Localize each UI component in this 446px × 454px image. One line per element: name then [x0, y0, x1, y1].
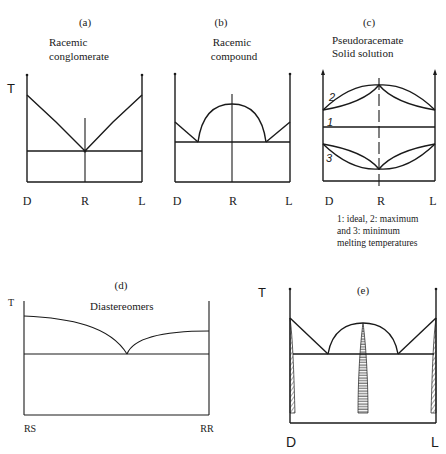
panel-e-liquidus-right [398, 318, 436, 354]
panel-e-left-arrow-icon [289, 288, 292, 291]
panel-e-label: (e) [357, 284, 370, 297]
panel-b-tick-L: L [285, 194, 292, 208]
panel-c-curve-label-3: 3 [326, 152, 333, 164]
panel-a-tick-R: R [81, 194, 89, 208]
panel-d-liquidus-left [24, 316, 127, 354]
panel-c-tick-R: R [377, 194, 385, 208]
panel-b-tick-D: D [173, 194, 182, 208]
panel-d-tick-RS: RS [24, 423, 36, 434]
panel-a-right-arrow-icon [141, 74, 144, 77]
panel-c-right-arrow-icon [433, 69, 437, 75]
panel-e-solid-solution-D [290, 318, 295, 413]
panel-a-title-line2: conglomerate [49, 50, 109, 62]
panel-c-pseudoracemate: (c) Pseudoracemate Solid solution 2 1 3 … [321, 16, 437, 248]
panel-e-y-axis-label: T [258, 285, 266, 300]
panel-c-caption-line1: 1: ideal, 2: maximum [337, 214, 419, 224]
panel-c-tick-D: D [325, 194, 334, 208]
panel-b-title-line2: compound [211, 50, 258, 62]
panel-c-label: (c) [363, 16, 376, 29]
panel-e-partial-solid-solution: (e) T D L [258, 284, 439, 450]
panel-c-title-line2: Solid solution [332, 47, 394, 59]
panel-a-eutectic-point [84, 150, 87, 153]
panel-b-tick-R: R [229, 194, 237, 208]
panel-c-left-arrow-icon [321, 69, 325, 75]
panel-b-left-arrow-icon [174, 73, 177, 76]
phase-diagrams-figure: (a) Racemic conglomerate T D R L (b) Rac… [0, 0, 446, 454]
panel-d-label: (d) [115, 279, 128, 292]
panel-a-title-line1: Racemic [49, 36, 88, 48]
panel-a-racemic-conglomerate: (a) Racemic conglomerate T D R L [7, 16, 146, 208]
panel-e-solid-solution-racemate [358, 323, 368, 413]
panel-a-y-axis-label: T [7, 81, 15, 96]
panel-e-right-arrow-icon [435, 288, 438, 291]
panel-c-tick-L: L [429, 194, 436, 208]
panel-e-tick-D: D [286, 434, 296, 450]
panel-d-diastereomers: (d) Diastereomers T RS RR [8, 279, 214, 434]
panel-b-title-line1: Racemic [213, 36, 252, 48]
panel-a-liquidus-left [27, 95, 85, 151]
panel-b-racemic-compound: (b) Racemic compound D R L [173, 16, 293, 208]
panel-c-title-line1: Pseudoracemate [332, 34, 404, 46]
panel-a-tick-D: D [23, 194, 32, 208]
panel-a-liquidus-right [85, 95, 142, 151]
panel-a-left-arrow-icon [26, 74, 29, 77]
panel-c-caption-line3: melting temperatures [337, 238, 418, 248]
panel-c-curve-label-2: 2 [328, 91, 335, 103]
panel-b-liquidus-left [175, 122, 198, 142]
panel-b-liquidus-right [266, 122, 290, 142]
panel-e-liquidus-left [290, 318, 328, 354]
panel-c-curve-label-1: 1 [327, 116, 333, 128]
panel-d-title: Diastereomers [90, 300, 154, 312]
panel-d-liquidus-right [127, 331, 209, 354]
panel-d-tick-RR: RR [200, 423, 214, 434]
panel-d-y-axis-label: T [8, 297, 14, 308]
panel-e-solid-solution-L [431, 318, 436, 413]
panel-b-right-arrow-icon [289, 73, 292, 76]
panel-b-label: (b) [215, 16, 228, 29]
panel-e-tick-L: L [431, 434, 439, 450]
panel-c-caption-line2: and 3: minimum [337, 226, 400, 236]
panel-a-label: (a) [79, 16, 92, 29]
panel-a-tick-L: L [138, 194, 145, 208]
